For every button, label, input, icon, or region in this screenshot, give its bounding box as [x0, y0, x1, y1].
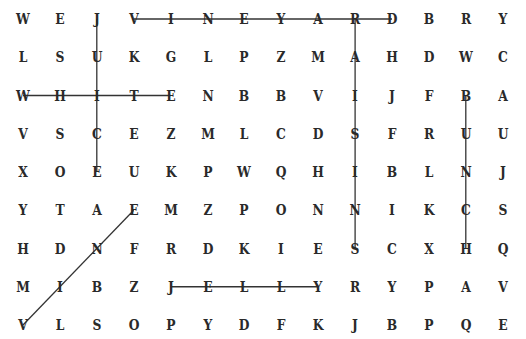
grid-cell[interactable]: V [306, 84, 331, 108]
grid-cell[interactable]: J [84, 7, 109, 31]
grid-cell[interactable]: Y [269, 7, 294, 31]
grid-cell[interactable]: F [121, 237, 146, 261]
grid-cell[interactable]: R [417, 122, 442, 146]
grid-cell[interactable]: R [158, 237, 183, 261]
grid-cell[interactable]: H [453, 237, 478, 261]
grid-cell[interactable]: Q [269, 160, 294, 184]
grid-cell[interactable]: Y [195, 313, 220, 337]
grid-cell[interactable]: K [417, 198, 442, 222]
grid-cell[interactable]: L [232, 122, 257, 146]
grid-cell[interactable]: S [343, 237, 368, 261]
grid-cell[interactable]: U [490, 122, 515, 146]
grid-cell[interactable]: Y [490, 7, 515, 31]
grid-cell[interactable]: M [11, 275, 36, 299]
grid-cell[interactable]: Y [380, 275, 405, 299]
grid-cell[interactable]: O [121, 313, 146, 337]
grid-cell[interactable]: P [195, 160, 220, 184]
grid-cell[interactable]: K [158, 160, 183, 184]
grid-cell[interactable]: E [490, 313, 515, 337]
grid-cell[interactable]: J [343, 313, 368, 337]
grid-cell[interactable]: H [11, 237, 36, 261]
grid-cell[interactable]: B [380, 313, 405, 337]
grid-cell[interactable]: O [48, 160, 73, 184]
grid-cell[interactable]: Y [11, 198, 36, 222]
grid-cell[interactable]: E [121, 198, 146, 222]
grid-cell[interactable]: D [306, 122, 331, 146]
grid-cell[interactable]: X [11, 160, 36, 184]
grid-cell[interactable]: H [306, 160, 331, 184]
grid-cell[interactable]: Y [306, 275, 331, 299]
grid-cell[interactable]: O [269, 198, 294, 222]
grid-cell[interactable]: V [490, 275, 515, 299]
grid-cell[interactable]: L [269, 275, 294, 299]
grid-cell[interactable]: B [417, 7, 442, 31]
grid-cell[interactable]: V [11, 122, 36, 146]
grid-cell[interactable]: I [158, 7, 183, 31]
grid-cell[interactable]: C [84, 122, 109, 146]
grid-cell[interactable]: M [158, 198, 183, 222]
grid-cell[interactable]: P [417, 313, 442, 337]
grid-cell[interactable]: N [195, 7, 220, 31]
grid-cell[interactable]: L [48, 313, 73, 337]
grid-cell[interactable]: E [121, 122, 146, 146]
grid-cell[interactable]: L [195, 45, 220, 69]
grid-cell[interactable]: K [121, 45, 146, 69]
grid-cell[interactable]: T [121, 84, 146, 108]
grid-cell[interactable]: E [232, 7, 257, 31]
grid-cell[interactable]: D [48, 237, 73, 261]
grid-cell[interactable]: B [453, 84, 478, 108]
grid-cell[interactable]: V [11, 313, 36, 337]
grid-cell[interactable]: E [158, 84, 183, 108]
grid-cell[interactable]: T [48, 198, 73, 222]
grid-cell[interactable]: E [48, 7, 73, 31]
grid-cell[interactable]: Q [490, 237, 515, 261]
grid-cell[interactable]: R [343, 275, 368, 299]
grid-cell[interactable]: N [453, 160, 478, 184]
grid-cell[interactable]: U [453, 122, 478, 146]
grid-cell[interactable]: I [269, 237, 294, 261]
grid-cell[interactable]: S [490, 198, 515, 222]
grid-cell[interactable]: D [232, 313, 257, 337]
grid-cell[interactable]: U [121, 160, 146, 184]
grid-cell[interactable]: C [380, 237, 405, 261]
grid-cell[interactable]: N [343, 198, 368, 222]
grid-cell[interactable]: W [453, 45, 478, 69]
grid-cell[interactable]: D [195, 237, 220, 261]
grid-cell[interactable]: P [158, 313, 183, 337]
grid-cell[interactable]: J [380, 84, 405, 108]
grid-cell[interactable]: K [306, 313, 331, 337]
grid-cell[interactable]: P [232, 45, 257, 69]
grid-cell[interactable]: N [306, 198, 331, 222]
grid-cell[interactable]: J [158, 275, 183, 299]
grid-cell[interactable]: F [269, 313, 294, 337]
grid-cell[interactable]: S [343, 122, 368, 146]
grid-cell[interactable]: C [269, 122, 294, 146]
grid-cell[interactable]: L [417, 160, 442, 184]
grid-cell[interactable]: C [490, 45, 515, 69]
grid-cell[interactable]: N [84, 237, 109, 261]
grid-cell[interactable]: W [232, 160, 257, 184]
grid-cell[interactable]: W [11, 84, 36, 108]
grid-cell[interactable]: I [380, 198, 405, 222]
grid-cell[interactable]: Z [269, 45, 294, 69]
grid-cell[interactable]: R [343, 7, 368, 31]
grid-cell[interactable]: W [11, 7, 36, 31]
grid-cell[interactable]: Z [158, 122, 183, 146]
grid-cell[interactable]: I [343, 84, 368, 108]
grid-cell[interactable]: B [232, 84, 257, 108]
grid-cell[interactable]: X [417, 237, 442, 261]
grid-cell[interactable]: V [121, 7, 146, 31]
grid-cell[interactable]: C [453, 198, 478, 222]
grid-cell[interactable]: Z [121, 275, 146, 299]
grid-cell[interactable]: J [490, 160, 515, 184]
grid-cell[interactable]: D [417, 45, 442, 69]
grid-cell[interactable]: A [343, 45, 368, 69]
grid-cell[interactable]: S [48, 122, 73, 146]
grid-cell[interactable]: H [380, 45, 405, 69]
grid-cell[interactable]: A [306, 7, 331, 31]
grid-cell[interactable]: F [380, 122, 405, 146]
grid-cell[interactable]: F [417, 84, 442, 108]
grid-cell[interactable]: Q [453, 313, 478, 337]
grid-cell[interactable]: L [11, 45, 36, 69]
grid-cell[interactable]: R [453, 7, 478, 31]
